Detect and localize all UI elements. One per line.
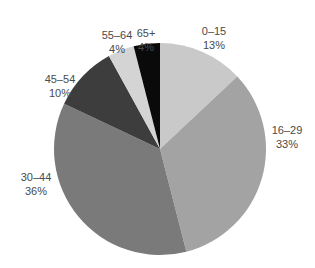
slice-label: 0–1513% [202, 24, 226, 52]
slice-value-label: 36% [21, 184, 52, 198]
slice-category-label: 0–15 [202, 24, 226, 38]
pie-chart [0, 0, 315, 268]
slice-value-label: 33% [272, 137, 303, 151]
slice-label: 45–5410% [45, 72, 76, 100]
slice-label: 30–4436% [21, 170, 52, 198]
slice-label: 16–2933% [272, 123, 303, 151]
slice-category-label: 16–29 [272, 123, 303, 137]
slice-category-label: 65+ [137, 26, 156, 40]
slice-value-label: 13% [202, 38, 226, 52]
slice-value-label: 10% [45, 86, 76, 100]
slice-label: 65+4% [137, 26, 156, 54]
slice-category-label: 55–64 [102, 28, 133, 42]
slice-category-label: 30–44 [21, 170, 52, 184]
slice-value-label: 4% [137, 40, 156, 54]
slice-label: 55–644% [102, 28, 133, 56]
slice-value-label: 4% [102, 42, 133, 56]
slice-category-label: 45–54 [45, 72, 76, 86]
